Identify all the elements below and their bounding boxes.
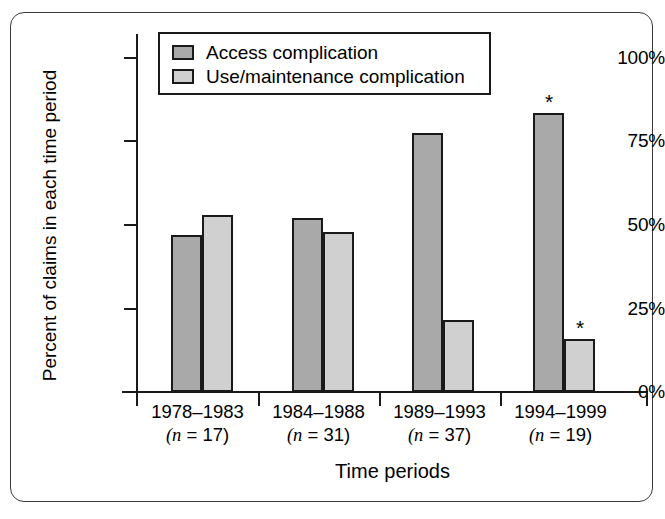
y-tick-label-100: 100% xyxy=(547,48,665,67)
y-tick-label-75: 75% xyxy=(547,131,665,150)
figure-bar-chart: 100% 75% 50% 25% 0% Percent of claims in… xyxy=(0,0,665,519)
x-category-1984-1988: 1984–1988 (n = 31) xyxy=(258,400,379,447)
x-category-n-value-4: = 19) xyxy=(544,424,592,445)
x-category-n-3: (n = 37) xyxy=(379,423,500,447)
bar-access-1978-1983 xyxy=(171,235,202,392)
bar-use-1994-1999 xyxy=(564,339,595,392)
legend-item-access: Access complication xyxy=(172,40,479,64)
x-category-n-value-1: = 17) xyxy=(181,424,229,445)
y-axis-title: Percent of claims in each time period xyxy=(40,36,59,416)
y-axis-line xyxy=(136,34,138,394)
x-category-n-4: (n = 19) xyxy=(500,423,621,447)
plot-area: 100% 75% 50% 25% 0% Percent of claims in… xyxy=(0,0,665,519)
x-category-n-2: (n = 31) xyxy=(258,423,379,447)
y-tick-25 xyxy=(124,308,137,310)
legend-item-use-maintenance: Use/maintenance complication xyxy=(172,64,479,88)
y-tick-75 xyxy=(124,140,137,142)
significance-star-use-1994-1999: * xyxy=(565,322,595,334)
bar-access-1984-1988 xyxy=(292,218,323,392)
legend-label-use-maintenance: Use/maintenance complication xyxy=(206,67,465,86)
bar-access-1994-1999 xyxy=(533,113,564,392)
bar-use-1989-1993 xyxy=(443,320,474,392)
x-category-range-2: 1984–1988 xyxy=(258,400,379,423)
significance-star-access-1994-1999: * xyxy=(534,96,564,108)
x-category-n-value-2: = 31) xyxy=(302,424,350,445)
legend-swatch-access-icon xyxy=(172,45,194,60)
x-category-n-italic-1: (n xyxy=(166,425,181,445)
x-category-1989-1993: 1989–1993 (n = 37) xyxy=(379,400,500,447)
x-category-n-italic-2: (n xyxy=(287,425,302,445)
x-category-n-1: (n = 17) xyxy=(137,423,258,447)
x-category-n-italic-4: (n xyxy=(529,425,544,445)
y-tick-label-50: 50% xyxy=(547,215,665,234)
legend-label-access: Access complication xyxy=(206,43,378,62)
x-category-n-italic-3: (n xyxy=(408,425,423,445)
y-tick-50 xyxy=(124,224,137,226)
y-tick-label-25: 25% xyxy=(547,299,665,318)
x-axis-title: Time periods xyxy=(137,461,648,481)
x-category-1994-1999: 1994–1999 (n = 19) xyxy=(500,400,621,447)
x-category-range-3: 1989–1993 xyxy=(379,400,500,423)
bar-access-1989-1993 xyxy=(412,133,443,392)
x-category-range-4: 1994–1999 xyxy=(500,400,621,423)
bar-use-1978-1983 xyxy=(202,215,233,392)
x-category-range-1: 1978–1983 xyxy=(137,400,258,423)
x-category-n-value-3: = 37) xyxy=(423,424,471,445)
x-category-1978-1983: 1978–1983 (n = 17) xyxy=(137,400,258,447)
x-axis-tick-end xyxy=(646,392,648,406)
y-tick-100 xyxy=(124,57,137,59)
bar-use-1984-1988 xyxy=(323,232,354,392)
legend-swatch-use-maintenance-icon xyxy=(172,69,194,84)
legend: Access complication Use/maintenance comp… xyxy=(158,32,491,95)
